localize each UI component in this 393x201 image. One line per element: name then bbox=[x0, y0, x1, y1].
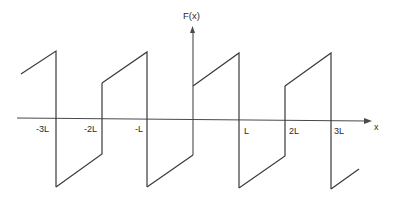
segment-L-to-2L bbox=[239, 86, 285, 188]
segment-zero-to-L bbox=[193, 53, 239, 188]
tick-label-minus-3L: -3L bbox=[36, 124, 49, 134]
tick-label-minus-2L: -2L bbox=[84, 124, 97, 134]
tick-label-2L: 2L bbox=[289, 126, 299, 136]
tick-label-3L: 3L bbox=[334, 126, 344, 136]
y-axis-label: F(x) bbox=[183, 10, 200, 21]
graph-canvas: F(x) x -3L -2L -L L 2L 3L bbox=[0, 0, 393, 201]
tick-label-minus-L: -L bbox=[135, 124, 143, 134]
segment-left-to-minus-3L bbox=[21, 51, 56, 187]
x-axis-label: x bbox=[374, 122, 379, 132]
x-axis-arrowhead-icon bbox=[364, 118, 372, 124]
segment-minus-L-to-zero bbox=[147, 155, 193, 187]
y-axis-arrowhead-icon bbox=[190, 26, 195, 33]
tick-label-L: L bbox=[244, 126, 249, 136]
function-graph: F(x) x -3L -2L -L L 2L 3L bbox=[0, 0, 393, 201]
segment-minus-3L-to-minus-2L bbox=[56, 83, 102, 187]
segment-3L-to-right bbox=[331, 169, 359, 189]
